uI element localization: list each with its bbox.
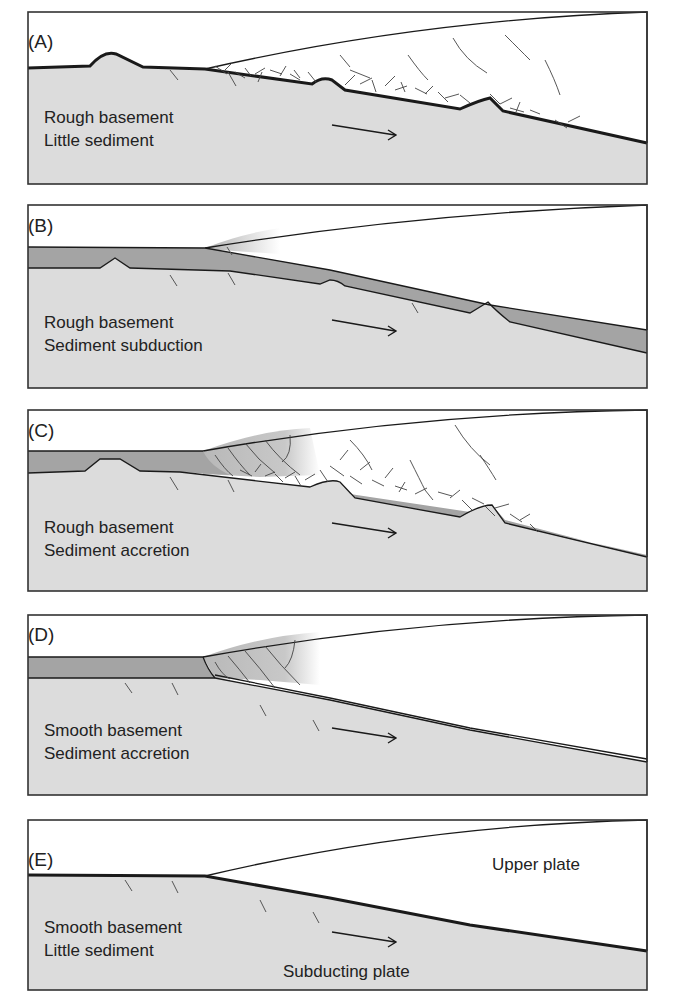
subducting-plate-label: Subducting plate [283, 962, 410, 981]
panel-b-line1: Rough basement [44, 313, 174, 332]
upper-plate-label: Upper plate [492, 855, 580, 874]
panel-b: (B) Rough basement Sediment subduction [28, 205, 647, 388]
panel-a-line1: Rough basement [44, 108, 174, 127]
panel-c-line1: Rough basement [44, 518, 174, 537]
panel-a: (A) Rough basement Little sediment [28, 12, 647, 184]
sediment-layer-d [28, 657, 215, 678]
panel-label-e: (E) [28, 849, 53, 870]
panel-d-line1: Smooth basement [44, 721, 182, 740]
panel-label-c: (C) [28, 420, 54, 441]
subduction-margin-figure: (A) Rough basement Little sediment (B) [0, 0, 675, 996]
panel-b-line2: Sediment subduction [44, 336, 203, 355]
panel-d: (D) Smooth basement Sediment accretion [28, 615, 647, 795]
panel-e: (E) Smooth basement Little sediment Uppe… [28, 820, 647, 990]
panel-label-a: (A) [28, 31, 53, 52]
panel-d-line2: Sediment accretion [44, 744, 190, 763]
panel-label-b: (B) [28, 215, 53, 236]
panel-label-d: (D) [28, 624, 54, 645]
panel-e-line1: Smooth basement [44, 918, 182, 937]
panel-c-line2: Sediment accretion [44, 541, 190, 560]
panel-a-line2: Little sediment [44, 131, 154, 150]
accretionary-wedge-d [203, 632, 320, 685]
panel-e-line2: Little sediment [44, 941, 154, 960]
panel-c: (C) Rough basement Sediment accretion [28, 410, 647, 591]
